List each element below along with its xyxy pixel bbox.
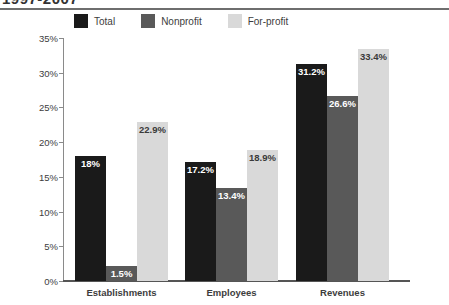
bar-group-employees: 17.2%13.4%18.9% [185,38,278,281]
bar-employees-for-profit[interactable]: 18.9% [247,150,278,281]
bar-establishments-total[interactable]: 18% [75,156,106,281]
legend-label: For-profit [248,16,289,27]
bar-value-label: 33.4% [358,51,389,62]
bar-employees-nonprofit[interactable]: 13.4% [216,188,247,281]
header-divider [0,8,449,10]
y-axis-tick-mark [59,281,63,282]
legend-item-total[interactable]: Total [74,14,115,28]
legend-item-nonprofit[interactable]: Nonprofit [141,14,202,28]
chart-legend: TotalNonprofitFor-profit [74,13,314,29]
y-axis-tick-label: 5% [44,241,58,252]
bar-establishments-nonprofit[interactable]: 1.5% [106,271,137,281]
y-axis-tick-label: 15% [39,171,58,182]
bar-value-label: 17.2% [185,164,216,175]
x-axis-label-employees: Employees [206,287,256,298]
legend-swatch-icon [141,14,155,28]
bar-revenues-total[interactable]: 31.2% [296,64,327,281]
y-axis-tick-label: 35% [39,33,58,44]
y-axis-tick-label: 0% [44,276,58,287]
x-axis-label-revenues: Revenues [320,287,365,298]
bar-revenues-for-profit[interactable]: 33.4% [358,49,389,281]
bar-employees-total[interactable]: 17.2% [185,162,216,281]
y-axis-tick-label: 25% [39,102,58,113]
page-title: 1997-2007 [2,0,78,7]
legend-label: Total [94,16,115,27]
x-axis-label-establishments: Establishments [86,287,156,298]
bar-revenues-nonprofit[interactable]: 26.6% [327,96,358,281]
legend-swatch-icon [228,14,242,28]
bar-value-label: 22.9% [137,124,168,135]
bar-group-revenues: 31.2%26.6%33.4% [296,38,389,281]
chart-title-clip: 1997-2007 [0,0,449,8]
legend-swatch-icon [74,14,88,28]
legend-label: Nonprofit [161,16,202,27]
bar-group-establishments: 18%1.5%22.9% [75,38,168,281]
legend-item-for-profit[interactable]: For-profit [228,14,289,28]
bar-groups: 18%1.5%22.9%17.2%13.4%18.9%31.2%26.6%33.… [63,38,410,281]
bar-value-label: 13.4% [216,190,247,201]
bar-establishments-for-profit[interactable]: 22.9% [137,122,168,281]
y-axis-tick-label: 20% [39,137,58,148]
bar-value-label: 18.9% [247,152,278,163]
y-axis-tick-label: 30% [39,67,58,78]
bar-value-label: 26.6% [327,98,358,109]
y-axis-tick-label: 10% [39,206,58,217]
bar-value-label: 18% [75,158,106,169]
plot-area: 0%5%10%15%20%25%30%35% 18%1.5%22.9%17.2%… [63,38,410,281]
bar-value-label: 1.5% [106,266,137,281]
bar-value-label: 31.2% [296,66,327,77]
